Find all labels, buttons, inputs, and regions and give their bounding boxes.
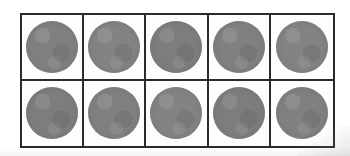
counter-circle[interactable] <box>26 87 78 139</box>
ten-frame-cell-1-1[interactable] <box>22 15 84 81</box>
ten-frame-cell-2-2[interactable] <box>84 81 146 147</box>
ten-frame-cell-1-3[interactable] <box>146 15 208 81</box>
counter-circle[interactable] <box>150 21 202 73</box>
counter-circle[interactable] <box>88 87 140 139</box>
page-root <box>0 0 350 156</box>
ten-frame-cell-2-1[interactable] <box>22 81 84 147</box>
counter-circle[interactable] <box>276 87 328 139</box>
ten-frame-cell-2-4[interactable] <box>209 81 271 147</box>
counter-circle[interactable] <box>213 21 265 73</box>
ten-frame-cell-1-5[interactable] <box>271 15 333 81</box>
counter-circle[interactable] <box>88 21 140 73</box>
scan-edge-shadow <box>0 148 350 156</box>
counter-circle[interactable] <box>213 87 265 139</box>
counter-circle[interactable] <box>26 21 78 73</box>
counter-circle[interactable] <box>150 87 202 139</box>
ten-frame-cell-1-4[interactable] <box>209 15 271 81</box>
ten-frame-cell-2-3[interactable] <box>146 81 208 147</box>
ten-frame-cell-2-5[interactable] <box>271 81 333 147</box>
counter-circle[interactable] <box>276 21 328 73</box>
ten-frame-grid <box>20 13 335 148</box>
ten-frame-cell-1-2[interactable] <box>84 15 146 81</box>
